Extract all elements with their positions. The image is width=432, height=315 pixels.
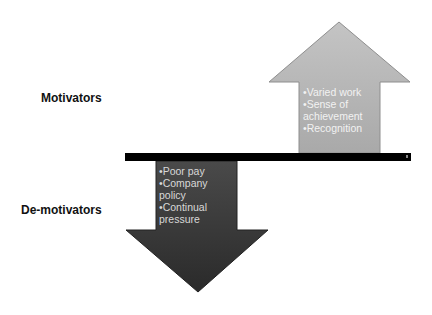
motivators-label: Motivators xyxy=(41,91,102,105)
list-item: •Poor pay xyxy=(159,165,237,177)
list-item: policy xyxy=(159,189,237,201)
list-item: •Varied work xyxy=(303,86,381,98)
diagram-canvas xyxy=(0,0,432,315)
list-item: •Sense of xyxy=(303,98,381,110)
list-item: •Company xyxy=(159,177,237,189)
list-item: achievement xyxy=(303,110,381,122)
list-item: •Recognition xyxy=(303,122,381,134)
divider-bar xyxy=(125,153,411,161)
list-item: pressure xyxy=(159,213,237,225)
demotivators-label: De-motivators xyxy=(21,203,102,217)
motivators-list: •Varied work •Sense of achievement •Reco… xyxy=(303,86,381,134)
demotivators-list: •Poor pay •Company policy •Continual pre… xyxy=(159,165,237,225)
list-item: •Continual xyxy=(159,201,237,213)
